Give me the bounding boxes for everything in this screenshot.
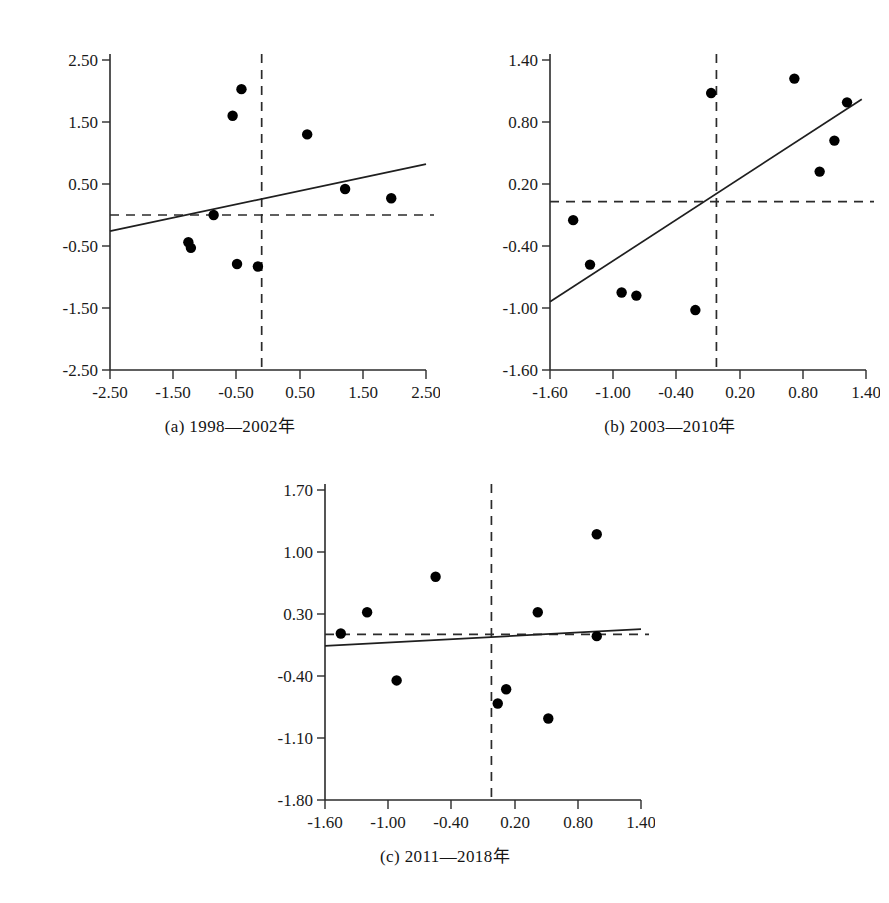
y-tick-label: 1.40 (508, 51, 538, 70)
y-tick-label: 0.30 (283, 605, 313, 624)
panel-c-yticklabels: 1.70 1.00 0.30 -0.40 -1.10 -1.80 (278, 481, 313, 810)
panel-a: 2.50 1.50 0.50 -0.50 -1.50 -2.50 (20, 28, 440, 403)
panel-c-plot: 1.70 1.00 0.30 -0.40 -1.10 -1.80 (235, 458, 655, 833)
y-tick-label: -2.50 (63, 361, 98, 380)
panel-b-fit-line (550, 99, 862, 302)
data-point (493, 698, 503, 708)
regression-line (550, 99, 862, 302)
data-point (227, 111, 237, 121)
data-point (430, 572, 440, 582)
y-tick-label: 2.50 (68, 51, 98, 70)
data-point (362, 607, 372, 617)
x-tick-label: 2.50 (411, 383, 440, 402)
panel-b-xticklabels: -1.60 -1.00 -0.40 0.20 0.80 1.40 (532, 383, 880, 402)
x-tick-label: 1.40 (851, 383, 880, 402)
x-tick-label: 0.20 (500, 813, 530, 832)
y-tick-label: -1.50 (63, 299, 98, 318)
panel-c: 1.70 1.00 0.30 -0.40 -1.10 -1.80 (235, 458, 655, 833)
panel-c-xticks (325, 800, 641, 809)
x-tick-label: -2.50 (92, 383, 127, 402)
data-point (543, 713, 553, 723)
data-point (391, 675, 401, 685)
data-point (814, 166, 824, 176)
panel-b: 1.40 0.80 0.20 -0.40 -1.00 -1.60 (460, 28, 880, 403)
panel-b-reference-lines (550, 54, 874, 370)
panel-b-points (568, 73, 852, 315)
regression-line (110, 164, 426, 231)
panel-a-fit-line (110, 164, 426, 231)
data-point (690, 305, 700, 315)
y-tick-label: -0.50 (63, 237, 98, 256)
data-point (585, 259, 595, 269)
y-tick-label: 0.20 (508, 175, 538, 194)
y-tick-label: -0.40 (503, 237, 538, 256)
panel-c-yticks (317, 490, 325, 800)
y-tick-label: -0.40 (278, 667, 313, 686)
y-tick-label: 0.50 (68, 175, 98, 194)
panel-a-yticks (102, 60, 110, 370)
y-tick-label: -1.10 (278, 729, 313, 748)
data-point (501, 684, 511, 694)
panel-b-yticklabels: 1.40 0.80 0.20 -0.40 -1.00 -1.60 (503, 51, 538, 380)
data-point (232, 259, 242, 269)
scatter-figure: 2.50 1.50 0.50 -0.50 -1.50 -2.50 (0, 0, 889, 903)
x-tick-label: -1.00 (370, 813, 405, 832)
data-point (789, 73, 799, 83)
data-point (631, 290, 641, 300)
x-tick-label: 0.80 (788, 383, 818, 402)
x-tick-label: 1.40 (626, 813, 655, 832)
x-tick-label: -1.00 (595, 383, 630, 402)
panel-a-caption: (a) 1998—2002年 (20, 412, 440, 437)
x-tick-label: 0.20 (725, 383, 755, 402)
x-tick-label: -0.40 (658, 383, 693, 402)
panel-a-xticklabels: -2.50 -1.50 -0.50 0.50 1.50 2.50 (92, 383, 440, 402)
data-point (302, 129, 312, 139)
x-tick-label: -1.60 (307, 813, 342, 832)
panel-c-points (336, 529, 602, 724)
x-tick-label: -1.50 (155, 383, 190, 402)
data-point (253, 261, 263, 271)
x-tick-label: 0.80 (563, 813, 593, 832)
panel-a-reference-lines (110, 54, 434, 370)
data-point (386, 193, 396, 203)
data-point (842, 97, 852, 107)
panel-b-xticks (550, 370, 866, 379)
x-tick-label: -0.50 (218, 383, 253, 402)
panel-a-yticklabels: 2.50 1.50 0.50 -0.50 -1.50 -2.50 (63, 51, 98, 380)
data-point (336, 628, 346, 638)
data-point (592, 631, 602, 641)
data-point (592, 529, 602, 539)
y-tick-label: 1.70 (283, 481, 313, 500)
data-point (186, 243, 196, 253)
x-tick-label: -0.40 (433, 813, 468, 832)
data-point (706, 88, 716, 98)
x-tick-label: 1.50 (348, 383, 378, 402)
y-tick-label: -1.60 (503, 361, 538, 380)
data-point (568, 215, 578, 225)
panel-b-plot: 1.40 0.80 0.20 -0.40 -1.00 -1.60 (460, 28, 880, 403)
panel-b-yticks (542, 60, 550, 370)
y-tick-label: -1.00 (503, 299, 538, 318)
data-point (208, 210, 218, 220)
panel-c-caption: (c) 2011—2018年 (235, 842, 655, 867)
panel-a-plot: 2.50 1.50 0.50 -0.50 -1.50 -2.50 (20, 28, 440, 403)
y-tick-label: 1.50 (68, 113, 98, 132)
panel-a-xticks (110, 370, 426, 379)
data-point (533, 607, 543, 617)
y-tick-label: 1.00 (283, 543, 313, 562)
x-tick-label: -1.60 (532, 383, 567, 402)
y-tick-label: 0.80 (508, 113, 538, 132)
data-point (236, 84, 246, 94)
data-point (340, 184, 350, 194)
x-tick-label: 0.50 (285, 383, 315, 402)
panel-b-caption: (b) 2003—2010年 (460, 412, 880, 437)
panel-c-xticklabels: -1.60 -1.00 -0.40 0.20 0.80 1.40 (307, 813, 655, 832)
data-point (829, 135, 839, 145)
y-tick-label: -1.80 (278, 791, 313, 810)
data-point (616, 287, 626, 297)
